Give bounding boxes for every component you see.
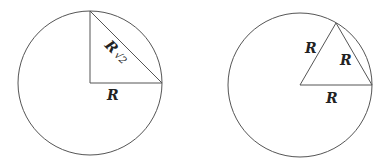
left-hypotenuse-label: R√2 [101,36,132,67]
right-right-side-label: R [339,52,352,68]
right-figure [228,13,372,157]
left-figure [18,11,162,155]
right-left-side-label: R [304,40,317,56]
left-base-label: R [106,87,119,103]
right-base-label: R [325,90,338,106]
left-right-triangle [90,11,162,83]
diagram-canvas: R√2 R R R R [0,0,385,164]
